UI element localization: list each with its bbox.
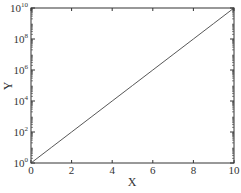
x-tick-label: 4 (109, 164, 115, 176)
data-series (31, 8, 234, 163)
series-line (31, 8, 234, 163)
x-tick-label: 10 (229, 164, 241, 176)
x-tick-label: 0 (28, 164, 34, 176)
y-tick-label: 100 (14, 156, 29, 169)
y-axis-ticks: 1001021041061081010 (10, 1, 234, 169)
chart: 0246810 1001021041061081010 X Y (0, 0, 241, 193)
y-tick-label: 106 (14, 63, 29, 76)
y-tick-label: 108 (14, 32, 29, 45)
x-axis-ticks: 0246810 (28, 8, 240, 176)
x-tick-label: 6 (150, 164, 156, 176)
x-tick-label: 8 (191, 164, 197, 176)
y-tick-label: 1010 (10, 1, 29, 14)
y-axis-label: Y (1, 81, 15, 90)
y-tick-label: 102 (14, 125, 29, 138)
x-axis-label: X (128, 175, 137, 189)
y-tick-label: 104 (14, 94, 29, 107)
x-tick-label: 2 (69, 164, 75, 176)
